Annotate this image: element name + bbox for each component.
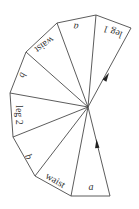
edge-label: b [23,152,35,161]
triangle-fan-diagram: leg 1awaistbleg 2bwaista [0,0,139,209]
edge-label: leg 1 [101,24,123,41]
edge-label: leg 2 [14,105,25,125]
arrow-markers [94,72,111,148]
edge-label: a [89,181,94,192]
diagram-stage: leg 1awaistbleg 2bwaista [0,0,139,209]
triangle-edges [10,15,131,196]
spoke-line [71,107,88,196]
spoke-line [88,28,131,107]
spoke-line [88,15,96,107]
arrow-bottom-edge-icon [94,139,99,148]
spoke-line [57,23,88,107]
edge-label: waist [33,34,57,55]
edge-label: a [73,22,79,33]
spoke-line [26,52,88,107]
edge-label: b [17,71,29,79]
outer-boundary [10,15,131,196]
